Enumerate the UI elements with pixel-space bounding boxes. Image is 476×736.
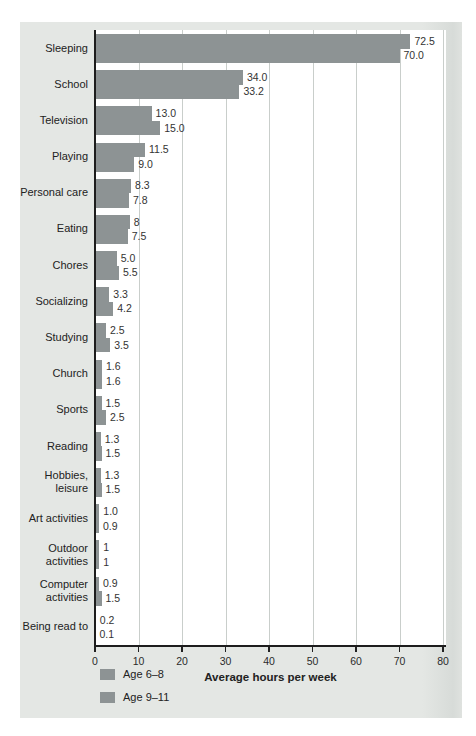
gridline-70	[400, 30, 401, 645]
bar-value-playing-series-1: 9.0	[138, 158, 153, 171]
bar-chores-series-0	[95, 251, 117, 266]
bar-value-sports-series-1: 2.5	[110, 411, 125, 424]
bar-value-personal-care-series-1: 7.8	[133, 194, 148, 207]
bar-value-television-series-0: 13.0	[156, 107, 176, 120]
bar-value-reading-series-1: 1.5	[106, 447, 121, 460]
bar-personal-care-series-0	[95, 179, 131, 194]
category-label-church: Church	[20, 356, 88, 392]
bar-value-sports-series-0: 1.5	[106, 397, 121, 410]
gridline-50	[313, 30, 314, 645]
legend-swatch-age-6-8	[100, 669, 115, 680]
category-label-sports: Sports	[20, 392, 88, 428]
x-tick-label-30: 30	[211, 655, 241, 667]
x-tick-10	[138, 647, 140, 652]
category-label-school: School	[20, 66, 88, 102]
bar-chores-series-1	[95, 266, 119, 281]
category-label-socializing: Socializing	[20, 283, 88, 319]
bar-school-series-0	[95, 70, 243, 85]
gridline-80	[443, 30, 444, 645]
category-label-playing: Playing	[20, 139, 88, 175]
bar-sports-series-1	[95, 410, 106, 425]
bar-value-personal-care-series-0: 8.3	[135, 179, 150, 192]
bar-playing-series-1	[95, 157, 134, 172]
category-label-television: Television	[20, 102, 88, 138]
x-tick-30	[225, 647, 227, 652]
bar-studying-series-0	[95, 323, 106, 338]
category-label-art-activities: Art activities	[20, 500, 88, 536]
bar-value-eating-series-0: 8	[134, 216, 140, 229]
bar-playing-series-0	[95, 143, 145, 158]
bar-value-being-read-to-series-0: 0.2	[100, 614, 115, 627]
bar-eating-series-1	[95, 229, 128, 244]
category-label-eating: Eating	[20, 211, 88, 247]
x-tick-label-0: 0	[80, 655, 110, 667]
chart-card: Sleeping72.570.0School34.033.2Television…	[20, 22, 462, 718]
y-axis-line	[94, 30, 97, 647]
bar-value-hobbies-leisure-series-0: 1.3	[105, 469, 120, 482]
bar-value-socializing-series-0: 3.3	[113, 288, 128, 301]
gridline-60	[356, 30, 357, 645]
bar-church-series-0	[95, 360, 102, 375]
bar-value-chores-series-1: 5.5	[123, 266, 138, 279]
bar-value-studying-series-1: 3.5	[114, 339, 129, 352]
bar-television-series-1	[95, 121, 160, 136]
bar-studying-series-1	[95, 338, 110, 353]
bar-value-computer-activities-series-0: 0.9	[103, 577, 118, 590]
legend-entry-age-6-8: Age 6–8	[100, 668, 164, 680]
legend-swatch-age-9-11	[100, 692, 115, 703]
bar-value-sleeping-series-1: 70.0	[404, 49, 424, 62]
x-tick-80	[442, 647, 444, 652]
bar-value-computer-activities-series-1: 1.5	[106, 592, 121, 605]
x-tick-0	[94, 647, 96, 652]
bar-value-eating-series-1: 7.5	[132, 230, 147, 243]
category-label-studying: Studying	[20, 319, 88, 355]
legend-label-age-6-8: Age 6–8	[123, 668, 164, 680]
gridline-30	[226, 30, 227, 645]
bar-value-outdoor-activities-series-1: 1	[103, 556, 109, 569]
gridline-40	[269, 30, 270, 645]
x-tick-20	[181, 647, 183, 652]
bar-value-church-series-1: 1.6	[106, 375, 121, 388]
bar-sleeping-series-0	[95, 34, 410, 49]
x-tick-50	[312, 647, 314, 652]
page: Sleeping72.570.0School34.033.2Television…	[0, 0, 476, 736]
legend-entry-age-9-11: Age 9–11	[100, 691, 169, 703]
category-label-reading: Reading	[20, 428, 88, 464]
bar-church-series-1	[95, 374, 102, 389]
category-label-hobbies-leisure: Hobbies, leisure	[20, 464, 88, 500]
bar-value-studying-series-0: 2.5	[110, 324, 125, 337]
bar-value-church-series-0: 1.6	[106, 360, 121, 373]
bar-value-outdoor-activities-series-0: 1	[103, 541, 109, 554]
bar-personal-care-series-1	[95, 193, 129, 208]
category-label-being-read-to: Being read to	[20, 609, 88, 645]
bar-value-art-activities-series-1: 0.9	[103, 520, 118, 533]
bar-value-school-series-0: 34.0	[247, 71, 267, 84]
x-tick-label-40: 40	[254, 655, 284, 667]
bar-sleeping-series-1	[95, 49, 400, 64]
category-label-personal-care: Personal care	[20, 175, 88, 211]
bar-value-school-series-1: 33.2	[243, 85, 263, 98]
x-tick-70	[399, 647, 401, 652]
x-axis-line	[94, 645, 447, 647]
bar-television-series-0	[95, 106, 152, 121]
bar-value-being-read-to-series-1: 0.1	[99, 628, 114, 641]
bar-value-hobbies-leisure-series-1: 1.5	[106, 483, 121, 496]
x-tick-label-50: 50	[298, 655, 328, 667]
bar-value-art-activities-series-0: 1.0	[103, 505, 118, 518]
x-tick-label-60: 60	[341, 655, 371, 667]
bar-eating-series-0	[95, 215, 130, 230]
category-label-sleeping: Sleeping	[20, 30, 88, 66]
bar-school-series-1	[95, 85, 239, 100]
category-label-computer-activities: Computer activities	[20, 573, 88, 609]
legend-label-age-9-11: Age 9–11	[123, 691, 169, 703]
x-tick-label-10: 10	[124, 655, 154, 667]
x-tick-label-20: 20	[167, 655, 197, 667]
category-label-chores: Chores	[20, 247, 88, 283]
x-tick-label-80: 80	[428, 655, 458, 667]
bar-value-television-series-1: 15.0	[164, 122, 184, 135]
bar-value-socializing-series-1: 4.2	[117, 302, 132, 315]
category-label-outdoor-activities: Outdoor activities	[20, 536, 88, 572]
x-tick-label-70: 70	[385, 655, 415, 667]
bar-socializing-series-1	[95, 302, 113, 317]
bar-value-sleeping-series-0: 72.5	[414, 35, 434, 48]
